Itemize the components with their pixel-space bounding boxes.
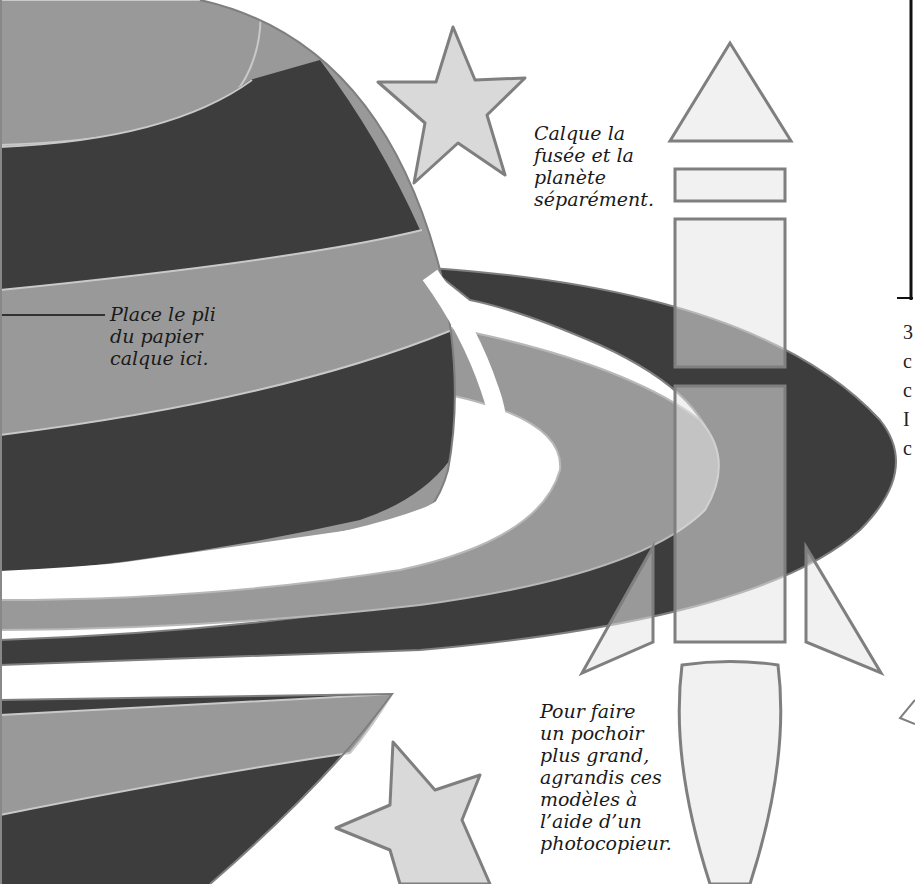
star-bottom-icon: [336, 742, 490, 884]
star-top-icon: [378, 27, 525, 183]
caption-trace-separately: Calque la fusée et la planète séparément…: [534, 122, 654, 210]
rocket-lower-body: [675, 386, 785, 642]
rocket-collar: [675, 169, 785, 201]
rocket-nose-cone: [670, 43, 791, 141]
right-edge-text-fragments: 3 c c I c: [903, 318, 913, 463]
caption-fold-line: Place le pli du papier calque ici.: [110, 303, 216, 369]
planet-lower: [0, 694, 392, 884]
rocket-right-fin: [806, 547, 881, 673]
rocket-upper-body: [675, 219, 785, 367]
partial-star-edge: [900, 700, 915, 724]
stencil-artwork: [0, 0, 915, 884]
caption-enlarge: Pour faire un pochoir plus grand, agrand…: [540, 700, 672, 854]
stencil-page: Calque la fusée et la planète séparément…: [0, 0, 915, 884]
rocket-exhaust: [679, 662, 781, 884]
